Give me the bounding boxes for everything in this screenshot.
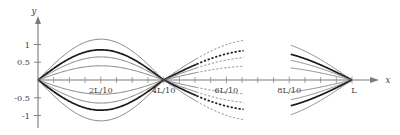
figure-container: y 1 0.5 -0.5 -1 x	[0, 0, 400, 135]
y-axis-arrowhead	[35, 16, 41, 24]
x-tick-label-8L10: 8L/10	[277, 85, 301, 95]
x-axis-arrowhead	[370, 77, 379, 83]
x-tick-label-6L10: 6L/10	[214, 85, 238, 95]
curve-mode-bold-solid-left	[38, 50, 197, 80]
y-tick-label-neg1: -1	[22, 111, 30, 121]
x-tick-label-L: L	[351, 85, 357, 95]
curve-envelope-upper-solid-left	[38, 39, 197, 80]
x-axis-label: x	[386, 75, 391, 85]
curve-mid-upper-solid-right	[291, 60, 352, 80]
y-axis-label: y	[31, 6, 37, 16]
y-tick-label-1: 1	[25, 40, 30, 50]
curve-mode-bold-neg-dashed-mid	[197, 96, 244, 110]
curve-mode-bold-dashed-mid	[197, 51, 244, 65]
curve-mid-upper-solid-left	[38, 57, 197, 80]
standing-wave-plot: y 1 0.5 -0.5 -1 x	[0, 0, 400, 135]
curve-mode-bold-neg-solid-left	[38, 80, 197, 110]
x-axis-group: x	[38, 75, 391, 95]
x-tick-label-2L10: 2L/10	[89, 85, 113, 95]
y-axis-group: y 1 0.5 -0.5 -1	[14, 6, 41, 128]
curve-low-upper-dashed-mid	[197, 66, 244, 72]
y-tick-label-0_5: 0.5	[17, 57, 30, 67]
curve-low-upper-solid-left	[38, 66, 197, 80]
curve-envelope-lower-solid-left	[38, 80, 197, 121]
y-tick-label-neg0_5: -0.5	[14, 93, 30, 103]
